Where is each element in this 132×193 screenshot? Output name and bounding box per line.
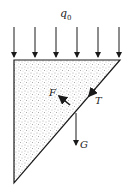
normal-force-label: F	[48, 87, 57, 98]
wedge-diagram: q0 F T G	[0, 0, 132, 193]
weight-label: G	[80, 139, 88, 150]
tension-label: T	[95, 95, 103, 106]
load-label: q0	[60, 7, 72, 22]
soil-wedge	[14, 60, 120, 183]
distributed-load-arrows	[14, 27, 119, 57]
